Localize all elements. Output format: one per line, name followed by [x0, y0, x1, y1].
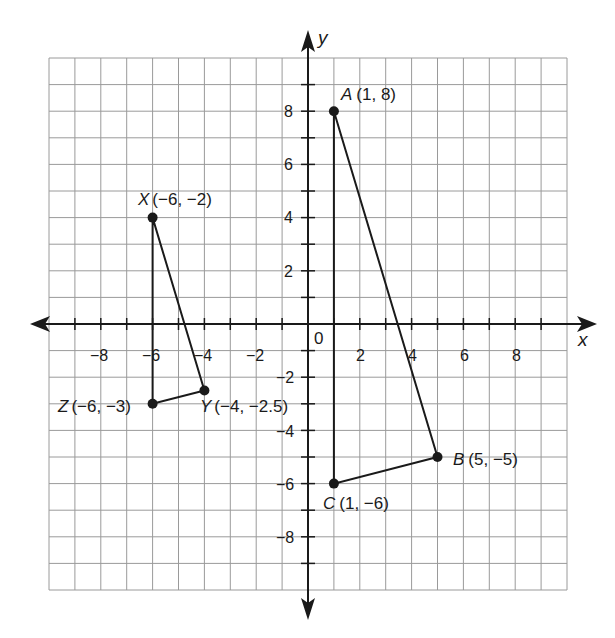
x-tick-label: 8	[512, 348, 521, 364]
y-tick-label: 2	[284, 264, 293, 280]
point-c-coords: (1, −6)	[339, 494, 389, 513]
point-label-b: B(5, −5)	[453, 451, 518, 468]
y-tick-label: 8	[284, 104, 293, 120]
y-axis-label: y	[318, 28, 328, 47]
point-z-dot	[148, 399, 158, 409]
axes	[30, 30, 597, 620]
origin-label: 0	[314, 330, 323, 347]
point-x-dot	[148, 213, 158, 223]
x-tick-label: −6	[142, 348, 160, 364]
point-a-dot	[329, 106, 339, 116]
point-label-y: Y(−4, −2.5)	[200, 398, 288, 415]
point-b-dot	[433, 452, 443, 462]
y-tick-label: −8	[276, 530, 294, 546]
y-tick-label: 4	[284, 210, 293, 226]
x-tick-label: −4	[194, 348, 212, 364]
x-tick-label: 4	[408, 348, 417, 364]
point-label-c: C(1, −6)	[323, 495, 389, 512]
x-tick-label: −2	[246, 348, 264, 364]
point-z-coords: (−6, −3)	[71, 397, 131, 416]
point-x-coords: (−6, −2)	[152, 190, 212, 209]
point-label-x: X(−6, −2)	[138, 191, 212, 208]
point-label-z: Z(−6, −3)	[58, 398, 131, 415]
x-tick-label: −8	[90, 348, 108, 364]
x-tick-label: 2	[356, 348, 365, 364]
point-b-coords: (5, −5)	[468, 450, 518, 469]
x-tick-label: 6	[460, 348, 469, 364]
coordinate-plane	[0, 0, 615, 638]
point-a-coords: (1, 8)	[356, 85, 396, 104]
y-tick-label: −6	[276, 477, 294, 493]
point-y-dot	[199, 386, 209, 396]
x-axis-label: x	[578, 330, 588, 349]
y-tick-label: −4	[276, 424, 294, 440]
point-c-dot	[329, 479, 339, 489]
y-tick-label: 6	[284, 157, 293, 173]
y-tick-label: −2	[276, 370, 294, 386]
point-label-a: A(1, 8)	[341, 86, 396, 103]
point-y-coords: (−4, −2.5)	[214, 397, 288, 416]
